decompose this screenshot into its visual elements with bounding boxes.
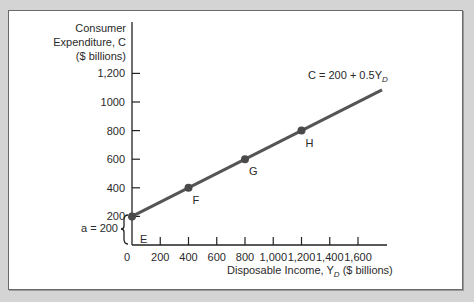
point-label-f: F <box>193 194 200 206</box>
y-axis-label-line1: Consumer <box>75 22 126 34</box>
data-points: EFGH <box>128 127 314 246</box>
y-axis-label-line2: Expenditure, C <box>53 36 126 48</box>
point-label-g: G <box>249 165 258 177</box>
point-e <box>128 212 136 220</box>
y-ticks: 20040060080010001,200 <box>97 67 140 222</box>
intercept-annotation: a = 200 <box>81 222 118 234</box>
point-label-e: E <box>140 233 147 245</box>
x-tick-label: 600 <box>208 251 226 263</box>
y-tick-label: 1000 <box>101 96 125 108</box>
point-f <box>185 184 193 192</box>
y-tick-label: 200 <box>107 210 125 222</box>
x-tick-label: 800 <box>236 251 254 263</box>
y-axis-label-line3: ($ billions) <box>76 50 126 62</box>
x-tick-label: 0 <box>124 251 130 263</box>
consumption-chart: 20040060080010001,200 02004006008001,000… <box>0 0 474 302</box>
x-tick-label: 200 <box>151 251 169 263</box>
y-tick-label: 1,200 <box>97 67 125 79</box>
x-axis-label: Disposable Income, YD ($ billions) <box>227 264 393 279</box>
y-tick-label: 600 <box>107 153 125 165</box>
equation-label: C = 200 + 0.5YD <box>308 69 388 84</box>
x-tick-label: 1,600 <box>344 251 372 263</box>
point-g <box>241 155 249 163</box>
point-label-h: H <box>306 137 314 149</box>
y-tick-label: 400 <box>107 182 125 194</box>
x-tick-label: 1,200 <box>288 251 316 263</box>
x-tick-label: 1,000 <box>259 251 287 263</box>
consumption-line <box>132 90 382 217</box>
x-tick-label: 400 <box>179 251 197 263</box>
x-tick-label: 1,400 <box>316 251 344 263</box>
y-tick-label: 800 <box>107 125 125 137</box>
point-h <box>298 127 306 135</box>
x-ticks: 02004006008001,0001,2001,4001,600 <box>124 237 372 263</box>
